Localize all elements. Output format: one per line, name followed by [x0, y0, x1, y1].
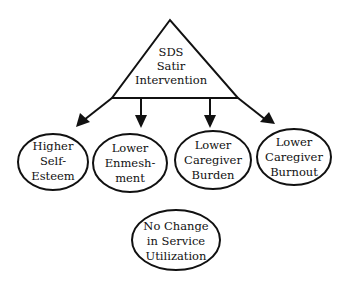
outcome-label-line: Burden: [192, 168, 236, 182]
outcome-label-line: Lower: [112, 141, 149, 155]
arrow-to-self-esteem: [76, 98, 112, 127]
arrow-to-caregiver-burden: [204, 98, 216, 128]
arrow-to-caregiver-burnout: [238, 98, 275, 124]
outcome-label-line: in Service: [147, 234, 206, 248]
outcome-label-line: ment: [115, 171, 145, 185]
outcome-label-line: Enmesh-: [105, 156, 156, 170]
outcome-label-line: Esteem: [31, 169, 75, 183]
outcome-lower-caregiver-burden: Lower Caregiver Burden: [175, 131, 251, 189]
outcome-label-line: No Change: [143, 219, 208, 233]
outcome-label-line: Lower: [276, 135, 313, 149]
outcome-lower-enmeshment: Lower Enmesh- ment: [93, 134, 167, 192]
diagram-canvas: SDS Satir Intervention Higher Self- Este…: [0, 0, 347, 281]
outcome-no-change-service-utilization: No Change in Service Utilization: [132, 210, 220, 270]
intervention-label-line-1: SDS: [159, 45, 184, 59]
outcome-lower-caregiver-burnout: Lower Caregiver Burnout: [257, 129, 331, 185]
outcome-label-line: Higher: [33, 139, 74, 153]
outcome-label-line: Caregiver: [265, 150, 323, 164]
outcome-label-line: Caregiver: [184, 153, 242, 167]
outcome-label-line: Burnout: [270, 165, 318, 179]
outcome-label-line: Self-: [40, 154, 66, 168]
outcome-label-line: Utilization: [146, 249, 207, 263]
intervention-label-line-2: Satir: [157, 59, 186, 73]
intervention-label-line-3: Intervention: [135, 73, 208, 87]
outcome-higher-self-esteem: Higher Self- Esteem: [18, 134, 88, 190]
outcome-label-line: Lower: [195, 138, 232, 152]
arrow-to-enmeshment: [135, 98, 147, 128]
